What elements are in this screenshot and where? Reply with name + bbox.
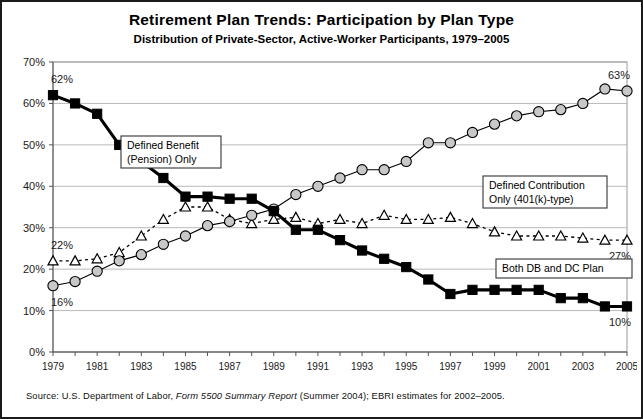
- data-point: [467, 127, 477, 137]
- data-point: [445, 212, 455, 221]
- data-point: [512, 111, 522, 121]
- data-point: [203, 202, 213, 211]
- data-point: [423, 214, 433, 223]
- y-tick-label: 70%: [23, 56, 45, 68]
- data-point: [136, 250, 146, 260]
- x-tick-label: 1985: [174, 361, 197, 372]
- data-point: [247, 194, 256, 203]
- x-tick-label: 1989: [263, 361, 286, 372]
- value-label: 22%: [51, 239, 73, 251]
- y-tick-label: 10%: [23, 305, 45, 317]
- x-axis-ticks: 1979198119831985198719891991199319951997…: [42, 352, 637, 372]
- data-point: [534, 107, 544, 117]
- callout-label: Defined Contribution: [489, 179, 585, 191]
- data-point: [291, 212, 301, 221]
- data-point: [313, 225, 322, 234]
- data-point: [225, 194, 234, 203]
- callout-label: Defined Benefit: [127, 139, 199, 151]
- data-point: [556, 231, 566, 240]
- x-tick-label: 1983: [130, 361, 153, 372]
- data-point: [291, 225, 300, 234]
- x-tick-label: 1979: [42, 361, 65, 372]
- y-tick-label: 60%: [23, 97, 45, 109]
- x-tick-label: 1995: [395, 361, 418, 372]
- data-point: [512, 285, 521, 294]
- data-point: [335, 214, 345, 223]
- y-tick-label: 20%: [23, 263, 45, 275]
- data-point: [114, 256, 124, 266]
- data-point: [159, 173, 168, 182]
- source-prefix: Source: U.S. Department of Labor,: [26, 390, 176, 401]
- data-point: [158, 214, 168, 223]
- y-axis-ticks: 0%10%20%30%40%50%60%70%: [23, 56, 53, 358]
- source-note: Source: U.S. Department of Labor, Form 5…: [26, 390, 505, 401]
- data-point: [600, 302, 609, 311]
- data-point: [622, 302, 631, 311]
- callout-both: Both DB and DC Plan: [496, 259, 632, 278]
- plot-area: 0%10%20%30%40%50%60%70% 1979198119831985…: [9, 56, 637, 376]
- value-label: 10%: [609, 316, 631, 328]
- data-point: [247, 210, 257, 220]
- data-point: [202, 221, 212, 231]
- data-point: [379, 210, 389, 219]
- data-point: [269, 207, 278, 216]
- x-tick-label: 1981: [86, 361, 109, 372]
- data-point: [225, 216, 235, 226]
- chart-subtitle: Distribution of Private-Sector, Active-W…: [2, 32, 641, 46]
- data-point: [181, 192, 190, 201]
- data-point: [445, 138, 455, 148]
- data-point: [335, 236, 344, 245]
- data-point: [380, 254, 389, 263]
- y-tick-label: 50%: [23, 139, 45, 151]
- data-point: [180, 202, 190, 211]
- x-tick-label: 1991: [307, 361, 330, 372]
- x-tick-label: 1987: [218, 361, 241, 372]
- callout-dc: Defined ContributionOnly (401(k)-type): [483, 176, 607, 208]
- data-point: [180, 231, 190, 241]
- data-point: [136, 231, 146, 240]
- data-point: [401, 156, 411, 166]
- data-point: [578, 98, 588, 108]
- data-point: [48, 91, 57, 100]
- callout-label: Both DB and DC Plan: [502, 262, 604, 274]
- data-point: [379, 165, 389, 175]
- x-tick-label: 2003: [572, 361, 595, 372]
- data-point: [600, 235, 610, 244]
- data-point: [622, 86, 632, 96]
- data-point: [600, 84, 610, 94]
- data-point: [313, 181, 323, 191]
- data-point: [446, 289, 455, 298]
- y-tick-label: 30%: [23, 222, 45, 234]
- y-tick-label: 0%: [29, 346, 45, 358]
- chart-figure: Retirement Plan Trends: Participation by…: [0, 0, 643, 419]
- y-tick-label: 40%: [23, 180, 45, 192]
- data-point: [556, 105, 566, 115]
- data-point: [423, 138, 433, 148]
- data-point: [468, 285, 477, 294]
- data-point: [402, 262, 411, 271]
- value-label: 16%: [51, 296, 73, 308]
- value-label: 62%: [51, 73, 73, 85]
- data-point: [203, 192, 212, 201]
- x-tick-label: 2005: [616, 361, 637, 372]
- data-point: [489, 119, 499, 129]
- data-point: [357, 246, 366, 255]
- source-suffix: (Summer 2004); EBRI estimates for 2002–2…: [297, 390, 505, 401]
- data-point: [467, 219, 477, 228]
- series-both: [48, 202, 632, 265]
- data-point: [93, 109, 102, 118]
- data-point: [158, 239, 168, 249]
- data-point: [70, 99, 79, 108]
- data-point: [335, 173, 345, 183]
- callout-label: (Pension) Only: [127, 153, 197, 165]
- x-tick-label: 1993: [351, 361, 374, 372]
- data-point: [48, 256, 58, 265]
- data-point: [424, 275, 433, 284]
- data-point: [357, 165, 367, 175]
- data-point: [556, 294, 565, 303]
- title-block: Retirement Plan Trends: Participation by…: [2, 2, 641, 47]
- data-point: [490, 285, 499, 294]
- data-point: [578, 294, 587, 303]
- data-point: [92, 266, 102, 276]
- callout-db: Defined Benefit(Pension) Only: [121, 136, 221, 168]
